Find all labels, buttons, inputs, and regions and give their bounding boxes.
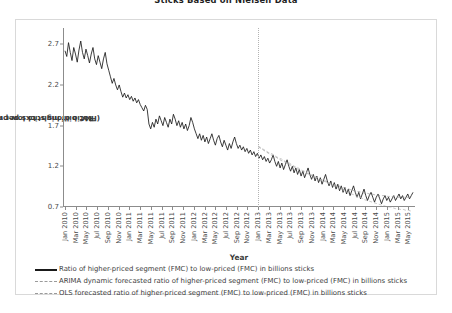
- x-tick-mark: [119, 207, 120, 210]
- x-tick-mark: [247, 207, 248, 210]
- x-tick-mark: [97, 207, 98, 210]
- x-tick-label: Jul 2010: [93, 212, 101, 239]
- x-tick-label: Mar 2015: [394, 212, 402, 243]
- x-tick-mark: [86, 207, 87, 210]
- series-lines: [63, 28, 415, 207]
- legend-label: Ratio of higher-priced segment (FMC) to …: [59, 265, 314, 273]
- x-tick-mark: [365, 207, 366, 210]
- y-axis-title: Ratio of high- to low-priced segment (FM…: [16, 28, 42, 207]
- x-tick-mark: [376, 207, 377, 210]
- x-tick-label: Sep 2011: [168, 212, 176, 243]
- x-tick-mark: [398, 207, 399, 210]
- x-tick-label: Mar 2014: [329, 212, 337, 243]
- legend-label: ARIMA dynamic forecasted ratio of higher…: [59, 277, 407, 285]
- x-tick-label: May 2010: [82, 212, 90, 245]
- x-tick-mark: [140, 207, 141, 210]
- x-tick-mark: [194, 207, 195, 210]
- x-axis-line: [63, 206, 415, 207]
- legend-label: OLS forecasted ratio of higher-priced se…: [59, 289, 367, 297]
- x-tick-mark: [280, 207, 281, 210]
- y-tick-label: 2.2: [48, 81, 63, 89]
- x-tick-label: Nov 2014: [372, 212, 380, 244]
- forecast-start-line: [258, 28, 259, 207]
- x-tick-mark: [151, 207, 152, 210]
- x-tick-mark: [344, 207, 345, 210]
- x-tick-label: Sep 2012: [233, 212, 241, 243]
- x-tick-mark: [237, 207, 238, 210]
- x-tick-label: Sep 2014: [361, 212, 369, 243]
- x-tick-label: Jan 2011: [125, 212, 133, 241]
- x-tick-label: Jan 2015: [383, 212, 391, 241]
- x-tick-label: May 2015: [404, 212, 412, 245]
- x-tick-mark: [129, 207, 130, 210]
- x-tick-label: Nov 2012: [243, 212, 251, 244]
- legend-item[interactable]: OLS forecasted ratio of higher-priced se…: [33, 287, 433, 299]
- x-axis-title: Year: [63, 253, 415, 262]
- x-tick-label: Nov 2013: [308, 212, 316, 244]
- y-tick-label: 0.7: [48, 203, 63, 211]
- x-tick-mark: [183, 207, 184, 210]
- series-line: [65, 41, 413, 204]
- x-tick-mark: [387, 207, 388, 210]
- x-tick-label: Nov 2010: [115, 212, 123, 244]
- y-axis-line: [63, 28, 64, 207]
- x-tick-mark: [162, 207, 163, 210]
- x-tick-mark: [323, 207, 324, 210]
- x-tick-mark: [258, 207, 259, 210]
- x-tick-mark: [290, 207, 291, 210]
- x-tick-label: Jul 2011: [158, 212, 166, 239]
- x-tick-label: Jan 2014: [319, 212, 327, 241]
- y-tick-label: 2.7: [48, 40, 63, 48]
- x-tick-label: Mar 2012: [201, 212, 209, 243]
- figure: Sticks Based on Nielsen Data Ratio of hi…: [0, 0, 452, 313]
- x-tick-mark: [172, 207, 173, 210]
- legend-key-dash: [33, 287, 59, 299]
- legend: Ratio of higher-priced segment (FMC) to …: [33, 263, 433, 299]
- x-tick-label: Sep 2010: [104, 212, 112, 243]
- x-tick-label: May 2014: [340, 212, 348, 245]
- x-tick-label: Mar 2011: [136, 212, 144, 243]
- x-tick-label: Jan 2012: [190, 212, 198, 241]
- x-tick-label: Sep 2013: [297, 212, 305, 243]
- x-tick-mark: [269, 207, 270, 210]
- x-tick-mark: [76, 207, 77, 210]
- y-tick-label: 1.2: [48, 162, 63, 170]
- legend-item[interactable]: ARIMA dynamic forecasted ratio of higher…: [33, 275, 433, 287]
- x-tick-label: Mar 2013: [265, 212, 273, 243]
- x-tick-label: Jul 2012: [222, 212, 230, 239]
- x-tick-label: Jul 2014: [351, 212, 359, 239]
- x-tick-mark: [301, 207, 302, 210]
- plot-area: 2.72.21.71.20.7 Jan 2010Mar 2010May 2010…: [63, 28, 415, 207]
- x-tick-label: Jan 2013: [254, 212, 262, 241]
- x-tick-mark: [108, 207, 109, 210]
- figure-title: Sticks Based on Nielsen Data: [0, 0, 452, 5]
- x-tick-mark: [205, 207, 206, 210]
- x-tick-mark: [333, 207, 334, 210]
- x-tick-label: May 2012: [211, 212, 219, 245]
- x-tick-mark: [408, 207, 409, 210]
- x-tick-mark: [355, 207, 356, 210]
- x-tick-label: May 2011: [147, 212, 155, 245]
- x-tick-mark: [226, 207, 227, 210]
- legend-item[interactable]: Ratio of higher-priced segment (FMC) to …: [33, 263, 433, 275]
- series-line: [258, 146, 411, 211]
- legend-key-dash: [33, 275, 59, 287]
- x-tick-label: May 2013: [276, 212, 284, 245]
- x-tick-label: Jan 2010: [61, 212, 69, 241]
- x-tick-mark: [215, 207, 216, 210]
- series-line: [258, 147, 411, 197]
- x-tick-label: Nov 2011: [179, 212, 187, 244]
- x-tick-label: Jul 2013: [286, 212, 294, 239]
- legend-key-solid: [33, 263, 59, 275]
- x-tick-label: Mar 2010: [72, 212, 80, 243]
- x-tick-mark: [65, 207, 66, 210]
- x-tick-mark: [312, 207, 313, 210]
- y-tick-label: 1.7: [48, 122, 63, 130]
